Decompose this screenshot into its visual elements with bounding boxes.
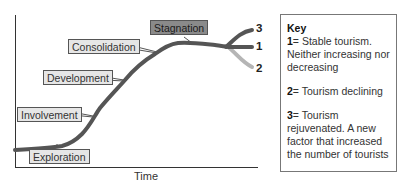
branch-label-1: 1: [256, 40, 262, 52]
branch-label-3: 3: [256, 22, 262, 34]
key-item-1: 1= Stable tourism. Neither increasing no…: [287, 35, 396, 74]
stage-label-involvement: Involvement: [17, 107, 82, 122]
stage-label-stagnation: Stagnation: [150, 20, 208, 35]
branch-2-declining: [228, 47, 252, 67]
key-item-text: = Tourism declining: [293, 85, 383, 97]
stage-label-consolidation: Consolidation: [68, 39, 140, 54]
key-item-2: 2= Tourism declining: [287, 85, 396, 98]
branch-3-rejuvenated: [226, 30, 252, 47]
key-box: Key 1= Stable tourism. Neither increasin…: [280, 14, 397, 172]
life-cycle-curve: [15, 43, 232, 150]
key-item-text: = Stable tourism. Neither increasing nor…: [287, 35, 390, 73]
key-title: Key: [287, 22, 396, 35]
tourism-life-cycle-diagram: Stagnation Consolidation Development Inv…: [0, 0, 404, 192]
key-item-text: = Tourism rejuvenated. A new factor that…: [287, 109, 389, 160]
stage-label-development: Development: [43, 70, 113, 85]
key-item-3: 3= Tourism rejuvenated. A new factor tha…: [287, 109, 396, 161]
stage-label-exploration: Exploration: [29, 149, 90, 164]
branch-label-2: 2: [256, 62, 262, 74]
x-axis-label: Time: [134, 170, 158, 182]
